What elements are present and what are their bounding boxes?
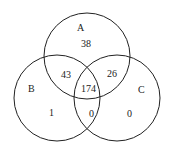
venn-diagram: A B C 38 43 26 174 1 0 0 xyxy=(0,0,170,153)
label-c: C xyxy=(138,84,145,95)
region-a-b: 43 xyxy=(61,69,71,80)
circle-c xyxy=(74,55,160,141)
region-a-c: 26 xyxy=(107,68,117,79)
region-c-only: 0 xyxy=(127,108,132,119)
region-b-c: 0 xyxy=(89,108,94,119)
circle-b xyxy=(14,55,100,141)
region-a-only: 38 xyxy=(81,38,91,49)
region-a-b-c: 174 xyxy=(81,83,96,94)
label-b: B xyxy=(28,83,35,94)
label-a: A xyxy=(77,22,85,33)
region-b-only: 1 xyxy=(49,107,54,118)
